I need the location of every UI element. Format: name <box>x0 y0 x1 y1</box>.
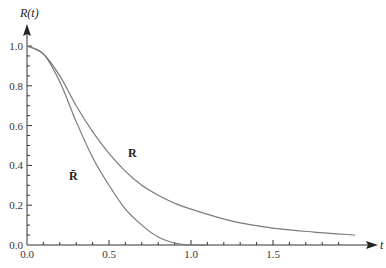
y-ticks: 0.00.20.40.60.81.0 <box>9 40 32 251</box>
curve-r-bar <box>27 46 207 245</box>
y-tick-label: 0.4 <box>9 159 23 171</box>
y-tick-label: 0.6 <box>9 120 23 132</box>
curves <box>27 46 355 245</box>
axes: 0.00.51.01.5 0.00.20.40.60.81.0 t R(t) <box>9 6 384 260</box>
y-tick-label: 0.0 <box>9 239 23 251</box>
x-ticks: 0.00.51.01.5 <box>20 240 338 260</box>
y-axis-title: R(t) <box>19 6 39 20</box>
y-tick-label: 0.2 <box>9 199 23 211</box>
x-tick-label: 1.5 <box>266 248 280 260</box>
x-tick-label: 1.0 <box>184 248 198 260</box>
y-tick-label: 1.0 <box>9 40 23 52</box>
x-tick-label: 0.5 <box>102 248 116 260</box>
x-axis-title: t <box>380 238 384 252</box>
curve-r <box>27 46 355 235</box>
curve-label-r: R <box>128 146 137 160</box>
curve-label-r-bar: R̄ <box>69 169 78 183</box>
reliability-chart: 0.00.51.01.5 0.00.20.40.60.81.0 t R(t) R… <box>0 0 386 268</box>
y-tick-label: 0.8 <box>9 80 23 92</box>
